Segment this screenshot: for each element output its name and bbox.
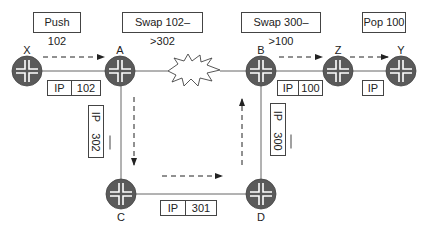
packet-a-c: IP 302 xyxy=(88,105,104,158)
router-a-icon xyxy=(105,56,135,86)
packet-label: 301 xyxy=(185,201,216,215)
router-y-icon xyxy=(386,56,416,86)
packet-d-b: IP 300 xyxy=(270,103,286,156)
router-b-icon xyxy=(246,56,276,86)
packet-proto: IP xyxy=(278,81,298,95)
node-label-d: D xyxy=(254,211,268,223)
packet-c-d: IP 301 xyxy=(160,200,217,216)
node-label-a: A xyxy=(113,44,127,56)
packet-proto: IP xyxy=(85,110,107,124)
node-label-c: C xyxy=(114,211,128,223)
packet-label: 102 xyxy=(71,81,100,95)
packet-proto: IP xyxy=(363,81,383,95)
packet-proto: IP xyxy=(266,109,290,123)
packet-label: 300 xyxy=(265,135,292,149)
router-x-icon xyxy=(12,56,42,86)
router-d-icon xyxy=(246,179,276,209)
node-label-x: X xyxy=(20,44,34,56)
packet-z-y: IP xyxy=(362,80,384,96)
packet-label: 100 xyxy=(298,81,322,95)
packet-x-a: IP 102 xyxy=(47,80,101,96)
node-label-b: B xyxy=(254,44,268,56)
node-label-y: Y xyxy=(394,44,408,56)
op-push: Push 102 xyxy=(33,12,81,33)
packet-proto: IP xyxy=(161,201,185,215)
router-c-icon xyxy=(106,179,136,209)
op-swap-a: Swap 102–>302 xyxy=(122,12,203,33)
packet-label: 302 xyxy=(82,136,111,150)
op-swap-b: Swap 300–>100 xyxy=(241,12,321,33)
router-z-icon xyxy=(323,56,353,86)
link-failure-burst-icon xyxy=(168,54,220,86)
node-label-z: Z xyxy=(331,44,345,56)
packet-b-z: IP 100 xyxy=(277,80,323,96)
packet-proto: IP xyxy=(48,81,71,95)
op-pop: Pop 100 xyxy=(362,12,406,33)
